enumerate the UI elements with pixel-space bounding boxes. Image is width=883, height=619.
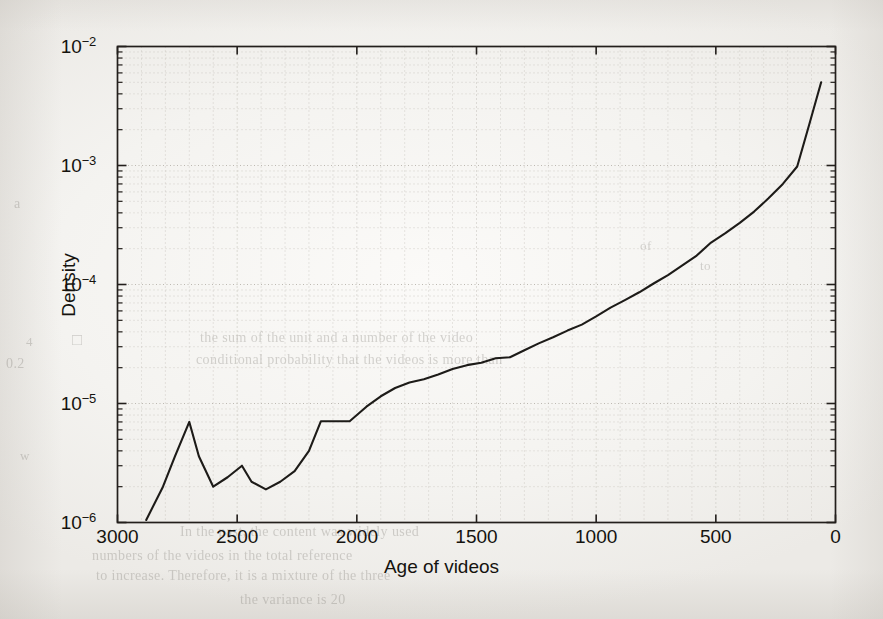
x-tick-label: 2500 (192, 526, 282, 548)
x-tick-label: 1500 (432, 526, 522, 548)
y-tick-label: 10−5 (22, 391, 96, 415)
x-tick-label: 3000 (73, 526, 163, 548)
x-tick-label: 2000 (312, 526, 402, 548)
x-axis-title: Age of videos (0, 556, 883, 578)
data-series-density (146, 82, 821, 520)
x-tick-label: 500 (671, 526, 761, 548)
figure-density-vs-age: Density Age of videos 10−610−510−410−310… (0, 0, 883, 619)
y-tick-label: 10−4 (22, 272, 96, 296)
x-tick-label: 0 (791, 526, 881, 548)
y-tick-label: 10−3 (22, 153, 96, 177)
y-tick-label: 10−2 (22, 34, 96, 58)
x-tick-label: 1000 (551, 526, 641, 548)
